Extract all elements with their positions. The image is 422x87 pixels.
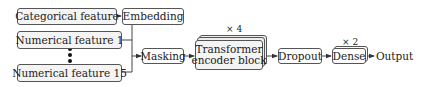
embedding-box: Embedding — [122, 8, 184, 25]
categorical-feature-box: Categorical feature — [17, 8, 117, 25]
dropout-label: Dropout — [278, 51, 322, 62]
dense-label: Dense — [333, 51, 366, 62]
numerical-feature-1-label: Numerical feature 1 — [16, 35, 124, 46]
embedding-label: Embedding — [123, 11, 184, 22]
masking-label: Masking — [140, 51, 186, 62]
dropout-box: Dropout — [278, 48, 322, 64]
transformer-encoder-block-box: Transformer encoder block — [195, 40, 263, 70]
transformer-multiplier: × 4 — [226, 24, 242, 34]
numerical-feature-15-box: Numerical feature 15 — [17, 64, 122, 82]
numerical-feature-1-box: Numerical feature 1 — [17, 31, 122, 49]
output-label: Output — [376, 50, 413, 62]
masking-box: Masking — [142, 48, 184, 64]
numerical-feature-15-label: Numerical feature 15 — [12, 68, 127, 79]
dense-box: Dense — [332, 48, 366, 64]
categorical-feature-label: Categorical feature — [15, 11, 119, 22]
transformer-label-line2: encoder block — [191, 55, 266, 66]
